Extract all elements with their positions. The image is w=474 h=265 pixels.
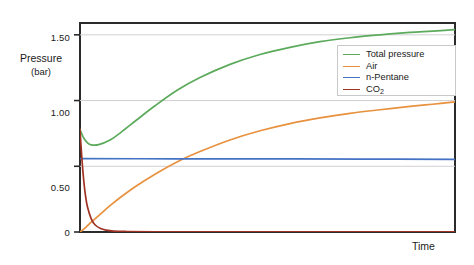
y-tick-label: 0.50 xyxy=(30,182,70,193)
y-axis-label: Pressure (bar) xyxy=(8,52,74,78)
legend-color-swatch xyxy=(343,89,360,90)
y-axis-label-title: Pressure xyxy=(20,52,62,64)
chart-legend: Total pressureAirn-PentaneCO2 xyxy=(337,45,456,96)
y-tick-label: 1.00 xyxy=(30,107,70,118)
legend-item[interactable]: Total pressure xyxy=(338,49,455,61)
x-axis-label: Time xyxy=(412,240,435,252)
legend-color-swatch xyxy=(343,66,360,67)
legend-item[interactable]: CO2 xyxy=(338,84,455,96)
y-tick-label: 0 xyxy=(30,227,70,238)
y-tick-label: 1.50 xyxy=(30,32,70,43)
legend-item[interactable]: Air xyxy=(338,61,455,73)
legend-label: CO2 xyxy=(366,84,384,95)
legend-label: n-Pentane xyxy=(366,72,409,83)
legend-item[interactable]: n-Pentane xyxy=(338,72,455,84)
chart-figure: Pressure (bar) 1.50 1.00 0.50 0 Time Tot… xyxy=(0,0,474,265)
legend-label: Air xyxy=(366,61,377,72)
legend-color-swatch xyxy=(343,77,360,78)
legend-color-swatch xyxy=(343,54,360,55)
legend-label: Total pressure xyxy=(366,49,424,60)
y-axis-label-units: (bar) xyxy=(8,65,74,78)
